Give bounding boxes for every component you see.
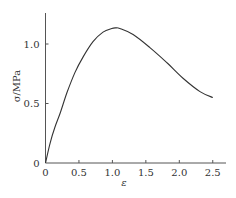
stress-strain-chart: 00.51.01.52.02.5 00.51.0 ε σ/MPa <box>0 0 236 198</box>
x-tick-label: 0.5 <box>71 167 87 178</box>
y-tick-label: 1.0 <box>24 39 40 50</box>
x-tick-label: 2.0 <box>171 167 187 178</box>
x-tick-label: 2.5 <box>205 167 221 178</box>
y-tick-label: 0.5 <box>24 98 40 109</box>
y-axis-label: σ/MPa <box>11 70 22 103</box>
y-ticks: 00.51.0 <box>24 39 49 169</box>
y-tick-label: 0 <box>33 158 39 169</box>
data-line <box>46 28 213 163</box>
x-tick-label: 1.0 <box>104 167 120 178</box>
x-tick-label: 1.5 <box>138 167 154 178</box>
x-tick-label: 0 <box>42 167 48 178</box>
x-axis-label: ε <box>121 177 126 188</box>
axes <box>46 13 227 163</box>
